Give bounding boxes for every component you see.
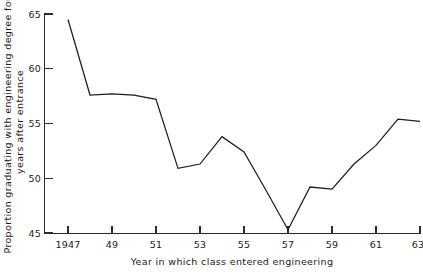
x-tick-label-59: 59 (326, 239, 339, 250)
data-series-line (68, 19, 420, 229)
x-tick-label-63: 63 (412, 239, 423, 250)
x-tick-label-55: 55 (238, 239, 251, 250)
y-tick-label-55: 55 (29, 118, 42, 129)
x-axis-tick-labels: 1947 49 51 53 55 57 59 61 63 (56, 239, 423, 250)
x-axis-title: Year in which class entered engineering (130, 256, 334, 267)
y-tick-label-60: 60 (29, 63, 42, 74)
y-axis-title-line2: years after entrance (14, 70, 25, 174)
line-chart: Proportion graduating with engineering d… (0, 0, 423, 274)
x-tick-label-1947: 1947 (56, 239, 81, 250)
x-axis-ticks (68, 226, 420, 234)
x-tick-label-49: 49 (106, 239, 119, 250)
y-axis-tick-labels: 65 60 55 50 45 (29, 9, 42, 239)
x-tick-label-61: 61 (370, 239, 383, 250)
y-tick-label-65: 65 (29, 9, 42, 20)
y-axis-title: Proportion graduating with engineering d… (2, 0, 25, 254)
y-tick-label-50: 50 (29, 173, 42, 184)
y-axis-ticks (45, 14, 54, 233)
y-axis-title-line1: Proportion graduating with engineering d… (2, 0, 13, 254)
chart-figure: Proportion graduating with engineering d… (0, 0, 423, 274)
x-tick-label-57: 57 (282, 239, 295, 250)
x-tick-label-51: 51 (150, 239, 163, 250)
x-tick-label-53: 53 (194, 239, 207, 250)
y-tick-label-45: 45 (29, 228, 42, 239)
